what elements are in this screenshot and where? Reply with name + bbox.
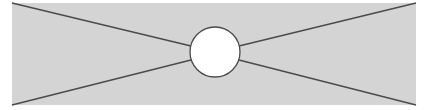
bowtie-diagram xyxy=(0,0,428,110)
center-circle xyxy=(190,27,240,77)
